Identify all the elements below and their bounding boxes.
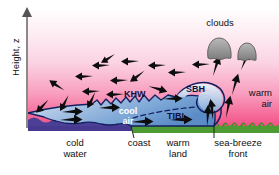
warm-air-label: warm air (228, 88, 272, 109)
sea-breeze-front-label: sea-breeze front (205, 138, 271, 159)
up-arrow-icon (22, 7, 32, 17)
tibl-label: TIBL (167, 111, 187, 121)
height-axis-line (26, 14, 28, 128)
cool-air-label: cool air (113, 106, 143, 126)
sbh-label: SBH (186, 84, 205, 94)
warm-land-label: warm land (156, 138, 200, 159)
khw-label: KHW (124, 89, 146, 99)
cold-water-label: cold water (51, 138, 99, 159)
clouds (208, 38, 257, 61)
clouds-label: clouds (193, 18, 247, 29)
sea-breeze-diagram: Height, z clouds KHW SBH TIBL cool air w… (0, 0, 279, 175)
axis-label-height: Height, z (11, 25, 21, 89)
